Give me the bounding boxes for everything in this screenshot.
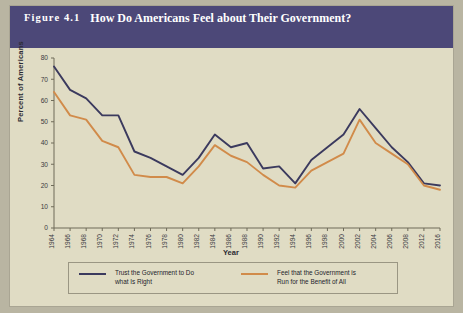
svg-text:1986: 1986	[225, 234, 232, 249]
legend-swatch-trust	[79, 273, 106, 275]
svg-text:2000: 2000	[338, 234, 345, 249]
svg-text:10: 10	[41, 203, 49, 210]
chart-area: Percent of Americans 01020304050607080 1…	[10, 48, 453, 306]
svg-text:20: 20	[41, 182, 49, 189]
svg-text:1998: 1998	[321, 234, 328, 249]
svg-text:1968: 1968	[80, 234, 87, 249]
svg-text:1966: 1966	[64, 234, 71, 249]
svg-text:1984: 1984	[209, 234, 216, 249]
legend-label-benefit-line1: Feel that the Government is	[277, 268, 397, 277]
svg-text:1976: 1976	[145, 234, 152, 249]
svg-text:40: 40	[41, 139, 49, 146]
page-title: How Do Americans Feel about Their Govern…	[90, 11, 390, 26]
figure-header-text: Figure 4.1How Do Americans Feel about Th…	[24, 11, 445, 29]
svg-text:1996: 1996	[305, 234, 312, 249]
svg-text:2012: 2012	[418, 234, 425, 249]
svg-text:1974: 1974	[128, 234, 135, 249]
figure-number-label: Figure 4.1	[24, 11, 80, 23]
svg-text:80: 80	[41, 54, 49, 61]
svg-text:0: 0	[44, 224, 48, 231]
svg-text:1978: 1978	[161, 234, 168, 249]
svg-text:2002: 2002	[354, 234, 361, 249]
series-line-benefit	[54, 92, 440, 190]
legend-label-trust-line2: what Is Right	[115, 277, 235, 286]
svg-text:50: 50	[41, 118, 49, 125]
svg-text:1994: 1994	[289, 234, 296, 249]
svg-text:1970: 1970	[96, 234, 103, 249]
series-line-trust	[54, 67, 440, 186]
svg-text:30: 30	[41, 161, 49, 168]
svg-text:60: 60	[41, 97, 49, 104]
svg-text:2006: 2006	[386, 234, 393, 249]
svg-text:1990: 1990	[257, 234, 264, 249]
chart-legend: Trust the Government to Do what Is Right…	[68, 262, 398, 294]
x-axis-ticks: 1964196619681970197219741976197819801982…	[48, 228, 441, 249]
figure-container: Figure 4.1How Do Americans Feel about Th…	[10, 6, 453, 306]
svg-text:1972: 1972	[112, 234, 119, 249]
svg-text:1988: 1988	[241, 234, 248, 249]
svg-text:2008: 2008	[402, 234, 409, 249]
legend-swatch-benefit	[241, 273, 268, 275]
svg-text:2016: 2016	[434, 234, 441, 249]
legend-label-trust-line1: Trust the Government to Do	[115, 268, 235, 277]
svg-text:70: 70	[41, 76, 49, 83]
x-axis-title: Year	[223, 248, 239, 257]
svg-text:1980: 1980	[177, 234, 184, 249]
svg-text:2004: 2004	[370, 234, 377, 249]
svg-text:1992: 1992	[273, 234, 280, 249]
figure-header: Figure 4.1How Do Americans Feel about Th…	[10, 6, 453, 48]
svg-text:1964: 1964	[48, 234, 55, 249]
svg-text:1982: 1982	[193, 234, 200, 249]
y-axis-ticks: 01020304050607080	[41, 54, 54, 231]
legend-label-benefit-line2: Run for the Benefit of All	[277, 277, 397, 286]
